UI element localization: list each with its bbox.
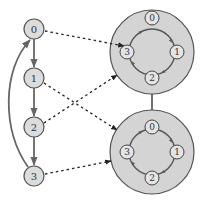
svg-text:3: 3	[31, 171, 37, 182]
mapping-3-to-bottom	[45, 161, 111, 174]
svg-text:0: 0	[31, 24, 37, 35]
svg-text:1: 1	[174, 47, 180, 57]
mapping-1-to-bottom	[44, 83, 117, 130]
svg-text:2: 2	[149, 173, 155, 183]
svg-text:0: 0	[149, 122, 155, 132]
ring-node-3: 3	[120, 45, 134, 59]
ring-node-1: 1	[170, 145, 184, 159]
svg-text:1: 1	[174, 147, 180, 157]
svg-text:2: 2	[149, 73, 155, 83]
chain-node-3: 3	[24, 166, 44, 186]
ring-node-0: 0	[145, 120, 159, 134]
chain-node-2: 2	[24, 117, 44, 137]
svg-text:2: 2	[31, 122, 37, 133]
chain-node-1: 1	[24, 68, 44, 88]
ring-node-0: 0	[145, 11, 159, 25]
svg-text:3: 3	[124, 147, 130, 157]
chain-node-0: 0	[24, 19, 44, 39]
ring-node-1: 1	[170, 45, 184, 59]
ring-node-2: 2	[145, 71, 159, 85]
cluster-bottom: 0 1 2 3	[110, 110, 194, 194]
ring-node-2: 2	[145, 171, 159, 185]
svg-text:3: 3	[124, 47, 130, 57]
svg-text:1: 1	[31, 73, 37, 84]
svg-text:0: 0	[149, 13, 155, 23]
graph-diagram: 0 1 2 3 0 1 2	[0, 0, 204, 201]
mapping-2-to-top	[44, 75, 117, 123]
chain-edge-3-0	[9, 40, 30, 167]
cluster-top: 0 1 2 3	[110, 10, 194, 94]
ring-node-3: 3	[120, 145, 134, 159]
